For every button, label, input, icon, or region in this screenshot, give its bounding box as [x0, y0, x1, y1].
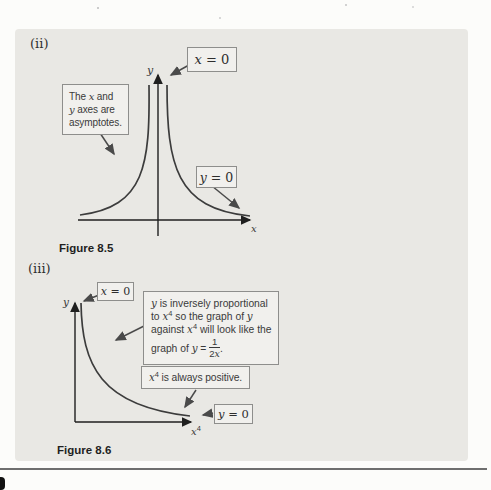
part-ii-label: (ii) — [30, 36, 48, 51]
fig85-x-equals-0-box: x = 0 — [187, 47, 237, 72]
fig85-y-axis-label: y — [147, 64, 153, 77]
inverse-proportion-callout-box: y is inversely proportional to x4 so the… — [143, 291, 279, 365]
part-iii-label: (iii) — [28, 261, 51, 276]
fig86-x-axis-label: x4 — [191, 426, 201, 437]
fig86-y-equals-0-box: y = 0 — [214, 404, 253, 424]
fig85-x-axis-label: x — [251, 223, 257, 234]
dust-speck — [345, 4, 347, 6]
dust-speck — [412, 6, 414, 8]
asymptote-note-box: The x and y axes are asymptotes. — [62, 84, 129, 135]
page-edge-tab — [0, 477, 5, 490]
page-bottom-rule — [0, 468, 487, 470]
fig86-x-equals-0-box: x = 0 — [97, 282, 134, 301]
dust-speck — [219, 17, 221, 19]
fig86-y-axis-label: y — [63, 296, 69, 308]
figure-8-6-caption: Figure 8.6 — [57, 444, 111, 456]
textbook-page: (ii) x = 0 y The x and y axes are asympt… — [0, 0, 491, 490]
figure-8-5-caption: Figure 8.5 — [59, 242, 113, 254]
x4-positive-note-box: x4 is always positive. — [141, 366, 250, 389]
fraction-one-over-2x: 12x — [209, 337, 220, 359]
dust-speck — [97, 7, 99, 9]
fig85-y-equals-0-box: y = 0 — [196, 166, 237, 188]
